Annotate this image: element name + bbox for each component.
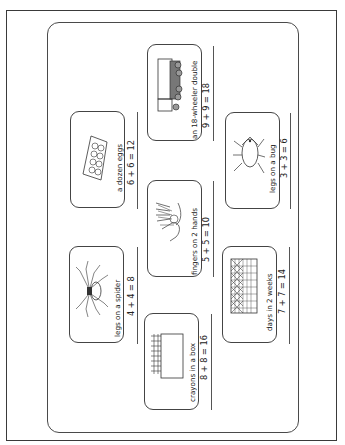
equation: 6 + 6 = 12 — [127, 140, 135, 185]
hands-icon — [152, 191, 188, 253]
caption: a dozen eggs — [116, 144, 124, 192]
answer-line — [137, 112, 138, 209]
card-days: days in 2 weeks — [222, 246, 277, 343]
answer-line — [213, 46, 214, 141]
answer-line — [213, 181, 214, 277]
equation: 4 + 4 = 8 — [127, 276, 135, 316]
answer-line — [290, 113, 291, 209]
card-truck: an 18-wheeler double — [147, 44, 202, 141]
caption: fingers on 2 hands — [191, 208, 199, 275]
equation: 5 + 5 = 10 — [202, 217, 210, 262]
answer-line — [289, 247, 290, 344]
bug-icon — [230, 123, 266, 185]
truck-icon — [152, 55, 188, 117]
card-spider: legs on a spider — [69, 246, 124, 343]
caption: legs on a bug — [269, 144, 277, 193]
equation: 9 + 9 = 18 — [202, 83, 210, 128]
equation: 7 + 7 = 14 — [278, 269, 286, 314]
card-eggs: a dozen eggs — [70, 111, 125, 208]
card-hands: fingers on 2 hands — [147, 180, 202, 277]
caption: days in 2 weeks — [266, 273, 274, 331]
answer-line — [137, 247, 138, 344]
egg-carton-icon — [77, 124, 113, 186]
equation: 3 + 3 = 6 — [280, 138, 288, 178]
caption: an 18-wheeler double — [191, 61, 199, 139]
calendar-icon — [227, 255, 263, 317]
card-crayons: crayons in a box — [144, 313, 199, 410]
card-bug: legs on a bug — [225, 112, 280, 209]
caption: legs on a spider — [114, 280, 122, 337]
equation: 8 + 8 = 16 — [200, 335, 208, 380]
crayon-box-icon — [149, 324, 185, 386]
caption: crayons in a box — [189, 343, 197, 402]
spider-icon — [74, 257, 110, 319]
answer-line — [211, 314, 212, 410]
